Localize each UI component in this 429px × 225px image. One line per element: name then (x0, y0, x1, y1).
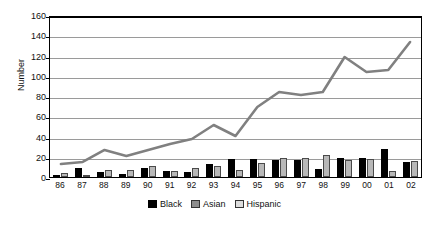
black-swatch (148, 200, 157, 208)
x-tick-label: 88 (93, 180, 115, 190)
x-tick-label: 86 (49, 180, 71, 190)
line-series-hispanic (50, 17, 421, 177)
legend-item-hispanic: Hispanic (235, 199, 282, 209)
x-tick-label: 90 (137, 180, 159, 190)
legend-label: Asian (203, 199, 226, 209)
x-tick-label: 99 (334, 180, 356, 190)
y-tick-label: 140 (31, 32, 46, 41)
legend-item-black: Black (148, 199, 182, 209)
x-tick-label: 00 (356, 180, 378, 190)
legend-item-asian: Asian (191, 199, 226, 209)
y-tick-label: 0 (41, 174, 46, 183)
y-tick-label: 100 (31, 72, 46, 81)
x-tick-label: 94 (225, 180, 247, 190)
x-tick-label: 87 (71, 180, 93, 190)
hispanic-line-path (61, 42, 410, 164)
x-tick-label: 97 (290, 180, 312, 190)
y-tick-label: 60 (36, 113, 46, 122)
x-tick-label: 91 (159, 180, 181, 190)
y-axis-tick-labels: 020406080100120140160 (18, 12, 46, 184)
x-tick-label: 93 (203, 180, 225, 190)
legend-label: Black (160, 199, 182, 209)
y-tick-label: 20 (36, 153, 46, 162)
hispanic-swatch (235, 200, 244, 208)
y-tick-label: 40 (36, 133, 46, 142)
chart-container: Number 020406080100120140160 86878889909… (0, 0, 429, 225)
y-tick-label: 160 (31, 12, 46, 21)
y-tick-label: 120 (31, 52, 46, 61)
asian-swatch (191, 200, 200, 208)
x-tick-label: 89 (115, 180, 137, 190)
plot-area (49, 16, 422, 178)
x-tick-label: 96 (268, 180, 290, 190)
x-tick-label: 95 (246, 180, 268, 190)
chart-legend: BlackAsianHispanic (0, 199, 429, 209)
legend-label: Hispanic (247, 199, 282, 209)
y-tick-label: 80 (36, 93, 46, 102)
x-tick-label: 98 (312, 180, 334, 190)
x-tick-label: 01 (378, 180, 400, 190)
x-axis-tick-labels: 8687888990919293949596979899000102 (49, 180, 422, 190)
x-tick-label: 92 (181, 180, 203, 190)
x-tick-label: 02 (400, 180, 422, 190)
